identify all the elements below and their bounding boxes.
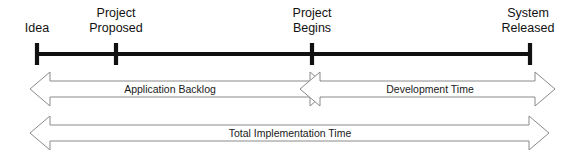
milestone-label-idea-line1: Idea [25, 21, 49, 35]
timeline-diagram-canvas: Idea Project Proposed Project Begins Sys… [0, 0, 579, 157]
span-application-backlog: Application Backlog [30, 72, 330, 106]
milestone-label-system-released-line2: Released [502, 21, 555, 35]
timeline-axis-group [37, 43, 530, 65]
milestone-label-project-begins-line2: Begins [293, 21, 331, 35]
milestone-label-project-begins: Project Begins [293, 6, 332, 35]
milestone-label-idea: Idea [25, 21, 49, 35]
milestone-label-system-released: System Released [502, 6, 555, 35]
milestone-labels: Idea Project Proposed Project Begins Sys… [25, 6, 555, 35]
span-label-development-time: Development Time [386, 83, 474, 95]
timeline-diagram: Idea Project Proposed Project Begins Sys… [0, 0, 579, 157]
milestone-label-project-proposed-line2: Proposed [89, 21, 143, 35]
milestone-label-project-begins-line1: Project [293, 6, 332, 20]
span-label-total-implementation-time: Total Implementation Time [229, 127, 352, 139]
milestone-label-project-proposed-line1: Project [97, 6, 136, 20]
span-development-time: Development Time [300, 72, 555, 106]
span-total-implementation-time: Total Implementation Time [30, 116, 549, 150]
span-label-application-backlog: Application Backlog [124, 83, 216, 95]
milestone-label-project-proposed: Project Proposed [89, 6, 143, 35]
milestone-label-system-released-line1: System [507, 6, 549, 20]
